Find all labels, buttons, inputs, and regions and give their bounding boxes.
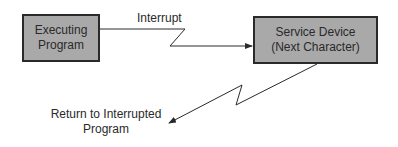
return-line1: Return to Interrupted [46,107,166,122]
executing-line2: Program [35,38,88,53]
service-device-box: Service Device (Next Character) [253,16,378,64]
service-line1: Service Device [271,25,360,40]
service-line2: (Next Character) [271,40,360,55]
executing-line1: Executing [35,23,88,38]
return-line2: Program [46,122,166,137]
return-label: Return to Interrupted Program [46,107,166,137]
interrupt-label: Interrupt [137,11,182,26]
executing-program-box: Executing Program [22,14,100,62]
return-arrow [169,64,317,123]
interrupt-arrow [100,29,252,46]
